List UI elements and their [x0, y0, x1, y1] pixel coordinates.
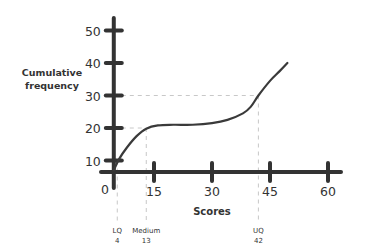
y-tick-label-50: 50 — [85, 24, 101, 39]
annotation-label-lq: LQ — [113, 227, 123, 235]
axes: 102030405015304560 — [85, 18, 341, 199]
origin-label: 0 — [101, 182, 109, 197]
x-tick-label-15: 15 — [146, 184, 162, 199]
cumulative-frequency-chart: LQ4Medium13UQ42 102030405015304560 Cumul… — [0, 0, 365, 252]
y-axis-label-line-1: Cumulative — [22, 67, 83, 78]
x-tick-label-60: 60 — [320, 184, 336, 199]
series-line-0 — [114, 63, 288, 170]
curve-group — [114, 63, 288, 170]
annotation-label-medium: Medium — [132, 227, 160, 235]
y-tick-label-30: 30 — [85, 89, 101, 104]
x-tick-label-45: 45 — [262, 184, 278, 199]
annotation-value-lq: 4 — [115, 237, 120, 245]
labels: Cumulative frequency Scores 0 — [22, 67, 231, 217]
y-tick-label-20: 20 — [85, 121, 101, 136]
annotation-value-uq: 42 — [254, 237, 263, 245]
annotation-label-uq: UQ — [253, 227, 264, 235]
x-axis-label: Scores — [193, 206, 231, 217]
x-tick-label-30: 30 — [204, 184, 220, 199]
annotation-value-medium: 13 — [142, 237, 151, 245]
y-tick-label-40: 40 — [85, 56, 101, 71]
y-axis-label-line-2: frequency — [25, 80, 80, 91]
y-tick-label-10: 10 — [85, 154, 101, 169]
